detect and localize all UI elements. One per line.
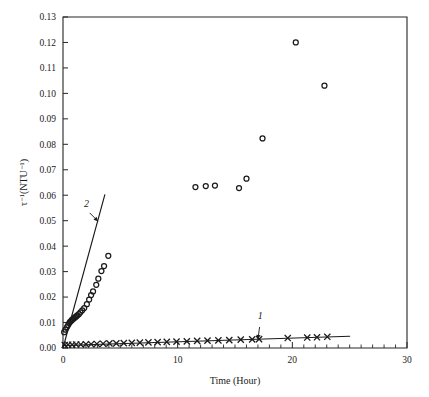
y-tick-label: 0.08 bbox=[39, 140, 56, 150]
data-point-circle bbox=[106, 253, 111, 258]
data-series-2 bbox=[62, 40, 327, 335]
y-tick-label: 0.01 bbox=[39, 318, 56, 328]
data-point-circle bbox=[293, 40, 298, 45]
x-tick-label: 0 bbox=[61, 355, 66, 365]
scatter-plot: 0.000.010.020.030.040.050.060.070.080.09… bbox=[0, 0, 429, 397]
y-tick-label: 0.12 bbox=[39, 38, 56, 48]
data-point-circle bbox=[96, 276, 101, 281]
y-tick-label: 0.02 bbox=[39, 292, 56, 302]
data-point-circle bbox=[322, 83, 327, 88]
y-tick-label: 0.11 bbox=[40, 63, 57, 73]
chart-figure: 0.000.010.020.030.040.050.060.070.080.09… bbox=[0, 0, 429, 397]
data-point-circle bbox=[102, 264, 107, 269]
data-point-circle bbox=[212, 183, 217, 188]
plot-frame bbox=[63, 17, 407, 348]
y-tick-label: 0.10 bbox=[39, 89, 56, 99]
y-tick-label: 0.09 bbox=[39, 114, 56, 124]
y-tick-label: 0.13 bbox=[39, 12, 56, 22]
data-point-circle bbox=[244, 176, 249, 181]
curve-annotation-1: 1 bbox=[258, 310, 263, 321]
data-point-circle bbox=[193, 185, 198, 190]
x-tick-label: 20 bbox=[288, 355, 298, 365]
x-tick-label: 10 bbox=[173, 355, 183, 365]
data-point-circle bbox=[94, 282, 99, 287]
y-tick-label: 0.06 bbox=[39, 191, 56, 201]
y-tick-label: 0.04 bbox=[39, 242, 56, 252]
curve-annotation-2: 2 bbox=[84, 198, 89, 209]
y-axis-title: τ⁻¹(NTU⁻¹) bbox=[18, 159, 30, 206]
x-tick-label: 30 bbox=[402, 355, 412, 365]
x-axis-title: Time (Hour) bbox=[210, 375, 260, 387]
data-point-circle bbox=[237, 186, 242, 191]
data-point-circle bbox=[99, 269, 104, 274]
y-tick-label: 0.00 bbox=[39, 343, 56, 353]
y-tick-label: 0.07 bbox=[39, 165, 56, 175]
y-tick-label: 0.03 bbox=[39, 267, 56, 277]
data-point-circle bbox=[260, 136, 265, 141]
data-point-circle bbox=[203, 184, 208, 189]
y-tick-label: 0.05 bbox=[39, 216, 56, 226]
